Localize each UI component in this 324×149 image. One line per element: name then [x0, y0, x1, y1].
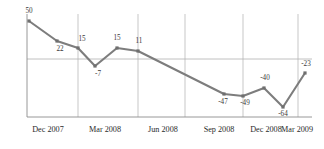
- data-point-marker-1: [55, 39, 58, 42]
- x-tick-label-0: Dec 2007: [32, 125, 64, 134]
- data-point-label-7: -49: [240, 99, 250, 107]
- data-point-marker-2: [76, 46, 79, 49]
- chart-canvas: 502215-71511-47-49-40-64-23 Dec 2007Mar …: [0, 0, 324, 149]
- x-tick-label-5: Mar 2009: [281, 125, 313, 134]
- data-point-marker-4: [115, 46, 118, 49]
- data-point-label-0: 50: [25, 7, 33, 15]
- data-point-label-3: -7: [95, 70, 101, 78]
- data-point-marker-10: [303, 71, 306, 74]
- data-point-label-1: 22: [56, 45, 64, 53]
- data-point-marker-9: [281, 105, 284, 108]
- data-point-marker-3: [93, 64, 96, 67]
- x-axis-tick-labels: Dec 2007Mar 2008Jun 2008Sep 2008Dec 2008…: [32, 125, 313, 134]
- data-point-label-6: -47: [218, 98, 228, 106]
- x-tick-label-4: Dec 2008: [250, 125, 282, 134]
- data-point-label-9: -64: [278, 110, 288, 118]
- x-tick-label-3: Sep 2008: [204, 125, 235, 134]
- data-point-label-8: -40: [260, 74, 270, 82]
- series-line: [29, 21, 305, 107]
- x-tick-label-2: Jun 2008: [148, 125, 178, 134]
- data-point-label-5: 11: [136, 37, 143, 45]
- data-point-marker-0: [27, 19, 30, 22]
- data-point-marker-8: [262, 86, 265, 89]
- x-tick-label-1: Mar 2008: [89, 125, 121, 134]
- data-point-label-2: 15: [78, 35, 86, 43]
- gridlines: [78, 14, 298, 117]
- data-point-marker-6: [222, 92, 225, 95]
- data-point-label-4: 15: [113, 34, 121, 42]
- data-point-markers: [27, 19, 306, 108]
- data-point-label-10: -23: [301, 60, 311, 68]
- line-chart: 502215-71511-47-49-40-64-23 Dec 2007Mar …: [0, 0, 324, 149]
- data-point-labels: 502215-71511-47-49-40-64-23: [25, 7, 311, 118]
- data-point-marker-7: [241, 94, 244, 97]
- data-point-marker-5: [136, 49, 139, 52]
